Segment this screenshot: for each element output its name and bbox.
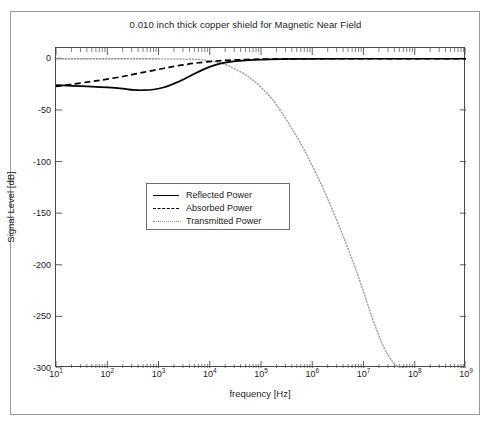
legend-line-solid-icon (152, 190, 180, 200)
legend-label: Absorbed Power (186, 203, 253, 213)
legend-line-dashed-icon (152, 203, 180, 213)
y-tick-label: -100 (33, 157, 51, 167)
y-tick-label: -50 (38, 105, 51, 115)
legend-label: Transmitted Power (186, 216, 261, 226)
chart-title: 0.010 inch thick copper shield for Magne… (0, 19, 491, 30)
x-tick-label: 107 (357, 369, 371, 379)
legend-item-transmitted-power[interactable]: Transmitted Power (152, 214, 284, 227)
x-tick-label: 108 (408, 369, 422, 379)
x-tick-label: 105 (254, 369, 268, 379)
series-absorbed-power (56, 59, 466, 87)
x-tick-label: 106 (305, 369, 319, 379)
x-tick-label: 102 (100, 369, 114, 379)
x-tick-label: 103 (152, 369, 166, 379)
legend-line-dotted-icon (152, 216, 180, 226)
series-reflected-power (56, 59, 466, 91)
y-tick-label: -150 (33, 208, 51, 218)
legend-item-reflected-power[interactable]: Reflected Power (152, 188, 284, 201)
chart-legend: Reflected Power Absorbed Power Transmitt… (146, 183, 290, 230)
y-tick-label: 0 (46, 53, 51, 63)
x-tick-label: 104 (203, 369, 217, 379)
x-tick-label: 101 (49, 369, 63, 379)
y-tick-label: -200 (33, 260, 51, 270)
legend-label: Reflected Power (186, 190, 252, 200)
y-axis-title: Signal Level [dB] (5, 171, 16, 242)
y-tick-label: -250 (33, 311, 51, 321)
x-axis-title: frequency [Hz] (55, 388, 465, 399)
legend-item-absorbed-power[interactable]: Absorbed Power (152, 201, 284, 214)
x-tick-label: 109 (459, 369, 473, 379)
